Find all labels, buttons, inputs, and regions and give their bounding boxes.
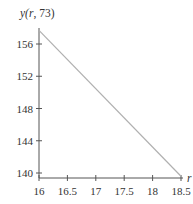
y-axis-title: y(r, 73) (19, 7, 55, 20)
y-tick-label: 152 (17, 70, 34, 82)
x-tick-label: 18.5 (171, 185, 191, 197)
series-line (39, 30, 181, 176)
x-tick-label: 17.5 (115, 185, 135, 197)
x-axis-title: r (187, 172, 192, 184)
x-tick-label: 17 (90, 185, 102, 197)
y-tick-label: 144 (17, 135, 34, 147)
x-tick-label: 18 (147, 185, 159, 197)
x-tick-label: 16.5 (58, 185, 78, 197)
data-series (39, 30, 181, 176)
line-chart: y(r, 73) 1401441481521561616.51717.51818… (0, 0, 193, 204)
y-tick-label: 148 (17, 103, 34, 115)
y-tick-label: 156 (17, 38, 34, 50)
y-tick-label: 140 (17, 167, 34, 179)
ticks (36, 44, 181, 181)
x-tick-label: 16 (34, 185, 46, 197)
tick-labels: 1401441481521561616.51717.51818.5 (17, 38, 192, 197)
